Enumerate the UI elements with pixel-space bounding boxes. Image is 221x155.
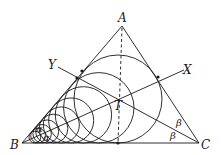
dot-ab-upper — [80, 69, 83, 72]
label-a: A — [117, 11, 127, 25]
triangle-abc — [22, 26, 199, 143]
label-t: T — [114, 99, 123, 113]
dot-bc — [116, 141, 119, 144]
label-x: X — [182, 63, 192, 77]
dashed-segment-a — [118, 28, 122, 143]
triangle-diagram: A B C T X Y β β α α — [0, 0, 221, 155]
label-beta-lower: β — [169, 130, 176, 141]
label-c: C — [201, 138, 210, 152]
label-alpha-upper: α — [36, 123, 43, 134]
label-y: Y — [48, 58, 57, 72]
dot-ac — [156, 75, 159, 78]
label-alpha-lower: α — [43, 132, 50, 143]
label-b: B — [9, 138, 19, 152]
dot-ab-lower — [75, 76, 78, 79]
chain-circle — [64, 73, 134, 143]
label-beta-upper: β — [175, 117, 182, 128]
